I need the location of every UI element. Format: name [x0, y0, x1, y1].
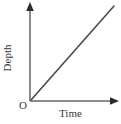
y-axis-arrowhead	[26, 2, 34, 11]
y-axis-label: Depth	[0, 32, 14, 84]
origin-label: O	[19, 100, 27, 111]
y-axis-label-text: Depth	[2, 45, 13, 72]
data-line-depth-vs-time	[31, 6, 114, 100]
x-axis-arrowhead	[110, 97, 119, 105]
x-axis-label: Time	[59, 108, 82, 119]
depth-time-line-chart: Depth Time O	[0, 0, 121, 124]
